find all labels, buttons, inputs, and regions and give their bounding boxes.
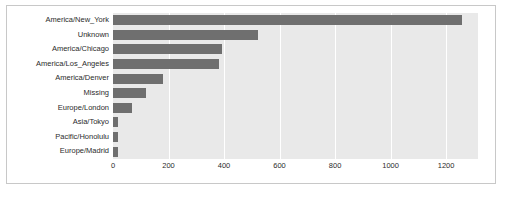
chart-plot-wrapper: America/New_YorkUnknownAmerica/ChicagoAm…: [7, 6, 497, 185]
category-label: America/Denver: [55, 71, 109, 86]
bar[interactable]: [113, 103, 132, 113]
bar[interactable]: [113, 44, 222, 54]
chart-figure-frame: America/New_YorkUnknownAmerica/ChicagoAm…: [6, 5, 496, 184]
bar-row[interactable]: [113, 86, 146, 101]
x-tick-label: 1200: [438, 161, 455, 170]
bar-row[interactable]: [113, 101, 132, 116]
bar[interactable]: [113, 30, 258, 40]
category-label: Missing: [84, 86, 109, 101]
x-tick-label: 800: [329, 161, 342, 170]
bar-row[interactable]: [113, 28, 258, 43]
bar-row[interactable]: [113, 144, 118, 159]
category-label: Pacific/Honolulu: [55, 130, 109, 145]
bar[interactable]: [113, 74, 163, 84]
bar-row[interactable]: [113, 71, 163, 86]
category-label: Europe/London: [58, 101, 109, 116]
bar-row[interactable]: [113, 115, 118, 130]
category-label: Unknown: [78, 28, 109, 43]
bar[interactable]: [113, 117, 118, 127]
category-label: America/Chicago: [52, 42, 109, 57]
x-tick-label: 200: [162, 161, 175, 170]
x-tick-label: 1000: [382, 161, 399, 170]
category-label: America/Los_Angeles: [36, 57, 109, 72]
chart-bar-series: [113, 13, 478, 159]
chart-value-axis-labels: 020040060080010001200: [7, 161, 497, 175]
bar[interactable]: [113, 147, 118, 157]
bar-row[interactable]: [113, 57, 219, 72]
x-tick-label: 0: [111, 161, 115, 170]
bar-row[interactable]: [113, 42, 222, 57]
x-tick-label: 400: [218, 161, 231, 170]
category-label: Asia/Tokyo: [73, 115, 109, 130]
category-label: Europe/Madrid: [60, 144, 109, 159]
x-tick-label: 600: [273, 161, 286, 170]
chart-plot-area: [113, 13, 478, 159]
bar[interactable]: [113, 59, 219, 69]
bar-row[interactable]: [113, 13, 462, 28]
chart-category-axis-labels: America/New_YorkUnknownAmerica/ChicagoAm…: [7, 13, 109, 159]
bar[interactable]: [113, 88, 146, 98]
bar[interactable]: [113, 15, 462, 25]
category-label: America/New_York: [46, 13, 110, 28]
bar-row[interactable]: [113, 130, 118, 145]
bar[interactable]: [113, 132, 118, 142]
